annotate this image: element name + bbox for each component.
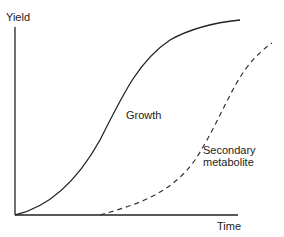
secondary-metabolite-curve [100,43,272,215]
secondary-label-line2: metabolite [203,156,256,168]
x-axis-label: Time [217,220,241,232]
secondary-label-line1: Secondary [203,144,256,156]
y-axis-label: Yield [6,11,30,23]
secondary-metabolite-label: Secondary metabolite [203,144,256,168]
growth-curve-label: Growth [126,109,161,121]
